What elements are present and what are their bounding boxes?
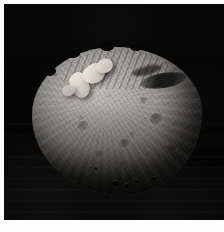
limb-pit-5	[94, 167, 98, 170]
asteroid-photograph	[4, 4, 224, 220]
terminator-shading	[32, 47, 202, 195]
limb-pit-3	[135, 180, 139, 183]
regolith-texture	[32, 47, 202, 195]
crater-1	[150, 113, 163, 125]
ridged-terrain	[62, 49, 172, 89]
bright-scarp-a	[66, 70, 92, 101]
crater-2	[120, 139, 130, 148]
limb-pit-1	[112, 180, 120, 186]
bright-scarp-b	[79, 59, 109, 87]
crater-6	[140, 97, 148, 104]
dark-trough-secondary	[131, 63, 162, 79]
bright-scarp-d	[61, 84, 76, 97]
surface-speckle-texture	[32, 47, 202, 195]
dark-trough	[139, 70, 186, 90]
limb-pit-2	[124, 184, 129, 188]
limb-pit-4	[152, 177, 156, 180]
crater-4	[168, 145, 177, 153]
asteroid-body	[32, 47, 202, 195]
screenshot-root: Grayscale image of the asteroid Vesta, a…	[0, 0, 224, 232]
bright-scarp-c	[94, 56, 115, 76]
crater-3	[78, 121, 89, 131]
crater-5	[96, 151, 104, 158]
